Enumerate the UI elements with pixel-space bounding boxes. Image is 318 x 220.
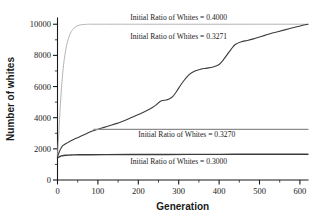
x-tick-label: 300 xyxy=(172,186,185,196)
y-tick-label: 2000 xyxy=(34,144,51,154)
y-axis-title: Number of whites xyxy=(5,57,16,141)
y-axis-ticks xyxy=(53,24,58,180)
x-tick-label: 600 xyxy=(294,186,307,196)
x-tick-label: 0 xyxy=(55,186,59,196)
x-tick-label: 500 xyxy=(253,186,266,196)
chart-plot-area: 0100200300400500600 02000400060008000100… xyxy=(0,0,318,220)
y-tick-label: 4000 xyxy=(34,113,51,123)
series-annotation-0: Initial Ratio of Whites = 0.4000 xyxy=(130,13,227,22)
series-annotation-3: Initial Ratio of Whites = 0.3000 xyxy=(130,157,227,166)
series-annotations-group: Initial Ratio of Whites = 0.4000Initial … xyxy=(130,13,235,166)
series-annotation-1: Initial Ratio of Whites = 0.3271 xyxy=(130,32,227,41)
chart-figure: 0100200300400500600 02000400060008000100… xyxy=(0,0,318,220)
y-tick-label: 0 xyxy=(47,175,51,185)
series-annotation-2: Initial Ratio of Whites = 0.3270 xyxy=(138,130,235,139)
y-tick-label: 6000 xyxy=(34,82,51,92)
y-tick-label: 8000 xyxy=(34,50,51,60)
y-axis-tick-labels: 0200040006000800010000 xyxy=(30,19,51,185)
x-tick-label: 200 xyxy=(132,186,145,196)
x-axis-tick-labels: 0100200300400500600 xyxy=(55,186,306,196)
x-tick-label: 100 xyxy=(92,186,105,196)
x-axis-ticks xyxy=(58,180,300,185)
x-axis-title: Generation xyxy=(156,201,209,212)
y-tick-label: 10000 xyxy=(30,19,51,29)
x-tick-label: 400 xyxy=(213,186,226,196)
